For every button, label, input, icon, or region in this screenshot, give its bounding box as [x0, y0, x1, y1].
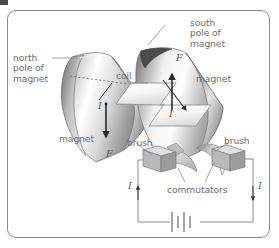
symbol-force-left: F	[106, 148, 113, 159]
current-origin-dot-left	[105, 103, 108, 106]
leader-commutators	[178, 168, 185, 182]
label-brush-left: brush	[127, 138, 153, 148]
symbol-current-wire-left: I	[128, 180, 132, 191]
label-magnet-left: magnet	[59, 134, 94, 144]
symbol-current-wire-right: I	[258, 180, 262, 191]
motor-diagram	[0, 0, 279, 248]
symbol-current-coil-right: I	[169, 108, 173, 119]
label-brush-right: brush	[224, 136, 250, 146]
label-north-pole: north pole of magnet	[13, 53, 48, 84]
label-coil: coil	[116, 71, 131, 81]
symbol-current-coil-left: I	[98, 100, 102, 111]
leader-south-pole	[148, 25, 165, 45]
label-south-pole: south pole of magnet	[190, 18, 225, 49]
battery	[172, 212, 190, 232]
leader-commutators-2	[205, 163, 214, 182]
label-commutators: commutators	[167, 185, 227, 195]
figure-canvas: north pole of magnet south pole of magne…	[0, 0, 279, 248]
label-magnet-right: magnet	[196, 74, 231, 84]
symbol-force-right: F	[176, 52, 183, 63]
brush-right	[212, 145, 245, 171]
